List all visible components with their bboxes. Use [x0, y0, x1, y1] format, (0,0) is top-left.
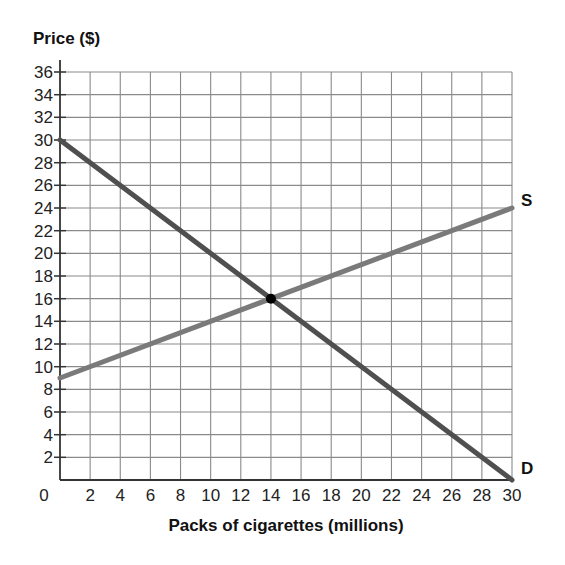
y-tick-label: 2 [44, 448, 53, 467]
y-axis-title: Price ($) [33, 29, 100, 48]
y-tick-label: 22 [34, 222, 53, 241]
y-tick-label: 6 [44, 403, 53, 422]
y-tick-label: 36 [34, 63, 53, 82]
series-label-d: D [521, 459, 533, 478]
x-tick-label: 12 [231, 486, 250, 505]
equilibrium-point [266, 294, 276, 304]
x-axis-title: Packs of cigarettes (millions) [168, 516, 403, 535]
y-tick-label: 20 [34, 244, 53, 263]
x-tick-label: 10 [201, 486, 220, 505]
y-tick-label: 30 [34, 131, 53, 150]
series-line-d [60, 140, 512, 480]
y-tick-label: 26 [34, 176, 53, 195]
x-tick-label: 16 [292, 486, 311, 505]
x-tick-label: 18 [322, 486, 341, 505]
series-label-s: S [521, 191, 532, 210]
x-tick-label: 20 [352, 486, 371, 505]
y-tick-label: 32 [34, 108, 53, 127]
x-tick-label: 24 [412, 486, 431, 505]
y-tick-label: 8 [44, 380, 53, 399]
supply-demand-chart: Price ($) 246810121416182022242628303234… [0, 0, 565, 565]
x-tick-label: 26 [442, 486, 461, 505]
x-tick-label: 22 [382, 486, 401, 505]
x-tick-label: 6 [146, 486, 155, 505]
y-tick-label: 4 [44, 426, 53, 445]
grid [54, 60, 514, 480]
y-tick-label: 34 [34, 86, 53, 105]
series-labels: SD [521, 191, 533, 478]
x-tick-label: 30 [503, 486, 522, 505]
y-tick-label: 18 [34, 267, 53, 286]
y-tick-label: 24 [34, 199, 53, 218]
series-line-s [60, 208, 512, 378]
x-tick-label: 0 [39, 486, 48, 505]
series-lines [60, 140, 512, 480]
y-tick-label: 10 [34, 358, 53, 377]
x-tick-label: 4 [116, 486, 125, 505]
x-axis-ticks: 024681012141618202224262830 [39, 486, 521, 505]
y-tick-label: 16 [34, 290, 53, 309]
y-tick-label: 14 [34, 312, 53, 331]
x-tick-label: 2 [85, 486, 94, 505]
x-tick-label: 8 [176, 486, 185, 505]
y-tick-label: 12 [34, 335, 53, 354]
x-tick-label: 14 [261, 486, 280, 505]
x-tick-label: 28 [472, 486, 491, 505]
y-tick-label: 28 [34, 154, 53, 173]
y-axis-ticks: 24681012141618202224262830323436 [34, 63, 53, 467]
